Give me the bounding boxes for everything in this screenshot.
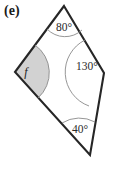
quadrilateral-diagram: 80° 130° 40° f xyxy=(0,0,122,169)
geometry-figure: (e) 80° 130° 40° f xyxy=(0,0,122,169)
angle-label-top: 80° xyxy=(56,21,73,33)
angle-label-bottom: 40° xyxy=(72,123,89,135)
angle-arc-right xyxy=(65,40,89,106)
angle-label-right: 130° xyxy=(76,60,98,72)
